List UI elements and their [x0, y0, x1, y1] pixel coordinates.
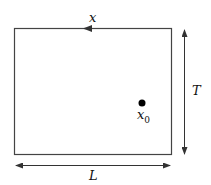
domain-rectangle — [15, 29, 172, 155]
label-x: x — [89, 10, 96, 25]
label-L: L — [89, 168, 98, 183]
label-x0-sub: 0 — [144, 115, 150, 125]
label-T: T — [192, 83, 201, 98]
diagram-canvas — [0, 0, 211, 185]
source-point — [139, 100, 146, 107]
label-x0: x0 — [137, 107, 150, 125]
